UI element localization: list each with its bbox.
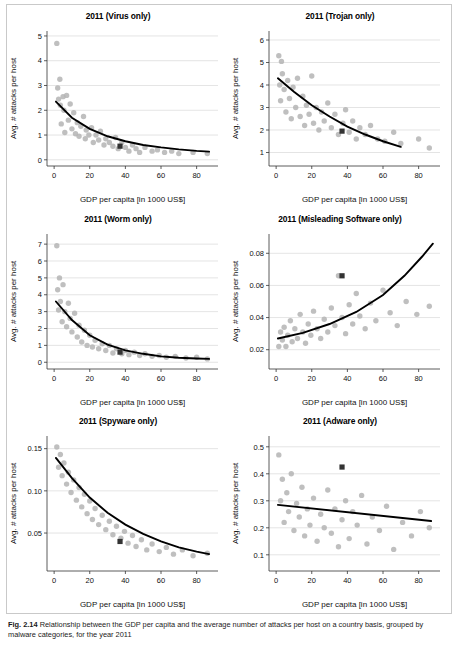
svg-text:2: 2 — [38, 324, 42, 333]
svg-text:20: 20 — [308, 171, 316, 180]
svg-text:60: 60 — [379, 171, 387, 180]
caption-text: Relationship between the GDP per capita … — [8, 620, 423, 639]
svg-text:0: 0 — [274, 576, 278, 585]
svg-text:0.1: 0.1 — [254, 551, 264, 560]
svg-text:80: 80 — [414, 374, 422, 383]
svg-text:0: 0 — [274, 374, 278, 383]
panel-spyware: 2011 (Spyware only) 0204060800.050.100.1… — [7, 410, 229, 613]
svg-text:Avg. # attacks per host: Avg. # attacks per host — [231, 57, 240, 139]
svg-text:0.08: 0.08 — [249, 249, 264, 258]
svg-text:2: 2 — [260, 126, 264, 135]
panel-worm: 2011 (Worm only) 02040608001234567GDP pe… — [7, 208, 229, 411]
svg-text:0.04: 0.04 — [249, 313, 264, 322]
svg-text:0.06: 0.06 — [249, 281, 264, 290]
svg-text:60: 60 — [379, 576, 387, 585]
svg-text:5: 5 — [38, 273, 42, 282]
svg-text:20: 20 — [86, 374, 94, 383]
svg-text:GDP per capita [in 1000 US$]: GDP per capita [in 1000 US$] — [302, 600, 407, 609]
svg-text:5: 5 — [38, 32, 42, 41]
figure-caption: Fig. 2.14 Relationship between the GDP p… — [8, 620, 450, 640]
svg-text:40: 40 — [343, 576, 351, 585]
svg-text:40: 40 — [121, 576, 129, 585]
svg-text:0.5: 0.5 — [254, 443, 264, 452]
svg-text:GDP per capita [in 1000 US$]: GDP per capita [in 1000 US$] — [302, 398, 407, 407]
plot-spyware: 0204060800.050.100.15GDP per capita [in … — [7, 410, 229, 613]
svg-text:GDP per capita [in 1000 US$]: GDP per capita [in 1000 US$] — [80, 600, 185, 609]
svg-text:GDP per capita [in 1000 US$]: GDP per capita [in 1000 US$] — [80, 398, 185, 407]
panel-trojan: 2011 (Trojan only) 020406080123456GDP pe… — [229, 5, 451, 208]
svg-text:4: 4 — [38, 290, 42, 299]
svg-text:GDP per capita [in 1000 US$]: GDP per capita [in 1000 US$] — [80, 195, 185, 204]
svg-text:6: 6 — [38, 256, 42, 265]
svg-text:0.15: 0.15 — [27, 445, 42, 454]
svg-text:0: 0 — [38, 358, 42, 367]
svg-text:0: 0 — [274, 171, 278, 180]
panel-misleading-software: 2011 (Misleading Software only) 02040608… — [229, 208, 451, 411]
svg-text:0.05: 0.05 — [27, 529, 42, 538]
svg-text:6: 6 — [260, 36, 264, 45]
svg-text:4: 4 — [260, 81, 264, 90]
svg-text:Avg. # attacks per host: Avg. # attacks per host — [9, 57, 18, 139]
svg-text:0: 0 — [52, 374, 56, 383]
svg-text:1: 1 — [38, 341, 42, 350]
svg-text:1: 1 — [38, 131, 42, 140]
svg-text:20: 20 — [308, 576, 316, 585]
svg-text:GDP per capita [in 1000 US$]: GDP per capita [in 1000 US$] — [302, 195, 407, 204]
svg-text:60: 60 — [157, 374, 165, 383]
svg-text:80: 80 — [192, 374, 200, 383]
figure-frame: 2011 (Virus only) 020406080012345GDP per… — [6, 4, 452, 614]
svg-text:3: 3 — [38, 81, 42, 90]
plot-worm: 02040608001234567GDP per capita [in 1000… — [7, 208, 229, 411]
caption-label: Fig. 2.14 — [8, 620, 38, 629]
plot-trojan: 020406080123456GDP per capita [in 1000 U… — [229, 5, 451, 208]
plot-misleading-software: 0204060800.020.040.060.08GDP per capita … — [229, 208, 451, 411]
panel-grid: 2011 (Virus only) 020406080012345GDP per… — [7, 5, 451, 613]
svg-text:7: 7 — [38, 239, 42, 248]
svg-text:0.3: 0.3 — [254, 497, 264, 506]
svg-text:Avg. # attacks per host: Avg. # attacks per host — [9, 260, 18, 342]
svg-text:0.10: 0.10 — [27, 487, 42, 496]
svg-text:Avg. # attacks per host: Avg. # attacks per host — [231, 260, 240, 342]
svg-text:3: 3 — [38, 307, 42, 316]
svg-text:40: 40 — [121, 171, 129, 180]
panel-virus: 2011 (Virus only) 020406080012345GDP per… — [7, 5, 229, 208]
panel-adware: 2011 (Adware only) 0204060800.10.20.30.4… — [229, 410, 451, 613]
svg-text:80: 80 — [414, 171, 422, 180]
svg-text:40: 40 — [343, 171, 351, 180]
svg-text:20: 20 — [308, 374, 316, 383]
svg-text:20: 20 — [86, 576, 94, 585]
svg-text:Avg. # attacks per host: Avg. # attacks per host — [9, 462, 18, 544]
svg-text:0: 0 — [52, 576, 56, 585]
svg-text:0.4: 0.4 — [254, 470, 264, 479]
svg-text:5: 5 — [260, 58, 264, 67]
svg-text:80: 80 — [414, 576, 422, 585]
svg-text:4: 4 — [38, 56, 42, 65]
svg-text:0.02: 0.02 — [249, 345, 264, 354]
svg-text:60: 60 — [157, 576, 165, 585]
plot-adware: 0204060800.10.20.30.40.5GDP per capita [… — [229, 410, 451, 613]
svg-text:3: 3 — [260, 103, 264, 112]
svg-text:Avg. # attacks per host: Avg. # attacks per host — [231, 462, 240, 544]
svg-text:80: 80 — [192, 171, 200, 180]
svg-text:40: 40 — [121, 374, 129, 383]
svg-text:1: 1 — [260, 148, 264, 157]
svg-text:40: 40 — [343, 374, 351, 383]
svg-text:0.2: 0.2 — [254, 524, 264, 533]
svg-text:2: 2 — [38, 106, 42, 115]
figure-page: 2011 (Virus only) 020406080012345GDP per… — [0, 0, 458, 649]
svg-text:60: 60 — [379, 374, 387, 383]
svg-text:0: 0 — [52, 171, 56, 180]
svg-text:60: 60 — [157, 171, 165, 180]
svg-text:80: 80 — [192, 576, 200, 585]
plot-virus: 020406080012345GDP per capita [in 1000 U… — [7, 5, 229, 208]
svg-text:20: 20 — [86, 171, 94, 180]
svg-text:0: 0 — [38, 156, 42, 165]
